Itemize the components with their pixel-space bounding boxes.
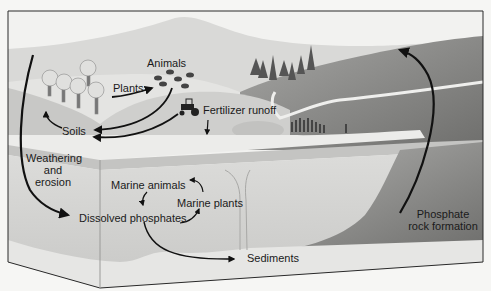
weathering-line1: Weathering bbox=[26, 152, 80, 164]
label-soils: Soils bbox=[62, 125, 86, 137]
rock-line1: Phosphate bbox=[398, 208, 488, 220]
label-weathering-erosion: Weathering and erosion bbox=[26, 152, 80, 188]
rock-line2: rock formation bbox=[398, 220, 488, 232]
label-fertilizer-runoff: Fertilizer runoff bbox=[203, 104, 276, 116]
label-animals: Animals bbox=[147, 57, 186, 69]
label-phosphate-rock-formation: Phosphate rock formation bbox=[398, 208, 488, 232]
label-sediments: Sediments bbox=[247, 252, 299, 264]
label-dissolved-phosphates: Dissolved phosphates bbox=[79, 212, 187, 224]
label-marine-animals: Marine animals bbox=[111, 179, 186, 191]
weathering-line2: and bbox=[26, 164, 80, 176]
weathering-line3: erosion bbox=[26, 176, 80, 188]
phosphorus-cycle-diagram bbox=[0, 0, 491, 291]
label-plants: Plants bbox=[113, 82, 144, 94]
label-marine-plants: Marine plants bbox=[177, 197, 243, 209]
